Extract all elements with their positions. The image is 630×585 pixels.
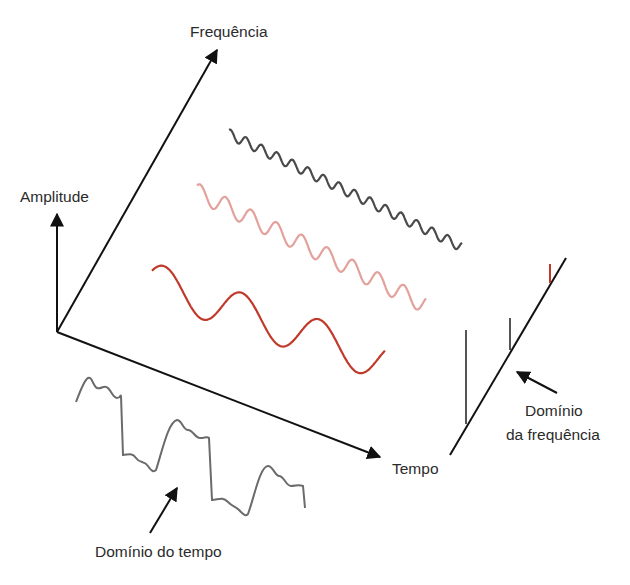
frequency-axis-label: Frequência: [190, 23, 268, 40]
composite-time-domain-wave: [76, 378, 305, 516]
low-frequency-wave: [152, 266, 385, 374]
time-axis-label: Tempo: [392, 460, 439, 477]
time-domain-pointer: [150, 488, 177, 533]
mid-frequency-wave: [197, 184, 426, 309]
frequency-domain-pointer: [517, 372, 557, 393]
time-domain-label: Domínio do tempo: [95, 543, 222, 560]
frequency-domain-label-line2: da frequência: [506, 426, 600, 443]
amplitude-axis-label: Amplitude: [20, 188, 89, 205]
time-axis: [57, 332, 380, 457]
diagram-canvas: Amplitude Frequência Tempo Domínio do te…: [0, 0, 630, 585]
frequency-domain-label-line1: Domínio: [525, 402, 583, 419]
high-frequency-wave: [229, 130, 462, 250]
